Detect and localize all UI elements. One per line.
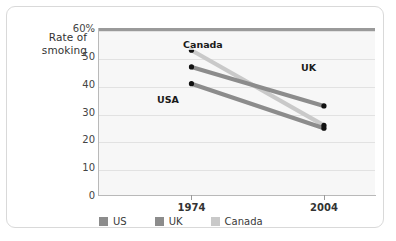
inline-label-canada: Canada (181, 39, 225, 50)
data-point-marker (189, 64, 194, 69)
legend-label: US (113, 216, 127, 227)
data-point-marker (189, 81, 194, 86)
y-axis-tick-label: 30 (37, 106, 95, 117)
chart-card: Rate of smoking 60%50403020100 19742004 … (6, 6, 384, 228)
x-axis-tick-label: 2004 (294, 202, 354, 213)
x-axis-tick-label: 1974 (161, 202, 221, 213)
y-axis-tick-label: 40 (37, 78, 95, 89)
y-axis-tick-label: 60% (37, 23, 95, 34)
legend-item-canada[interactable]: Canada (211, 216, 263, 227)
legend-swatch-icon (99, 217, 108, 226)
inline-label-us: USA (155, 94, 181, 105)
x-axis-tick-mark (324, 195, 325, 200)
legend-swatch-icon (211, 217, 220, 226)
y-axis-tick-label: 50 (37, 50, 95, 61)
series-lines (99, 28, 375, 195)
series-line-us (191, 84, 323, 129)
inline-label-uk: UK (299, 62, 318, 73)
legend-label: Canada (225, 216, 263, 227)
chart-legend: USUKCanada (99, 214, 339, 228)
data-point-marker (321, 103, 326, 108)
data-point-marker (321, 123, 326, 128)
y-axis-tick-label: 0 (37, 190, 95, 201)
y-axis-tick-labels: 60%50403020100 (31, 28, 95, 195)
y-axis-tick-label: 10 (37, 162, 95, 173)
y-axis-tick-label: 20 (37, 134, 95, 145)
legend-swatch-icon (155, 217, 164, 226)
x-axis-tick-mark (191, 195, 192, 200)
legend-item-us[interactable]: US (99, 216, 127, 227)
legend-label: UK (169, 216, 183, 227)
legend-item-uk[interactable]: UK (155, 216, 183, 227)
x-axis-line (98, 195, 376, 196)
